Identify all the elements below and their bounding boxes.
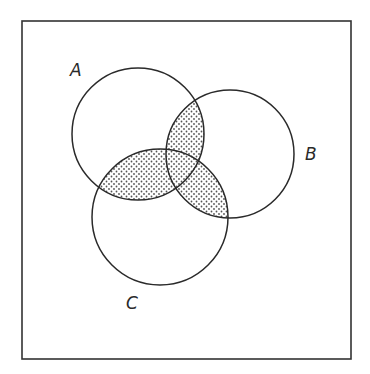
venn-diagram: A B C (0, 0, 370, 374)
shaded-regions (92, 90, 294, 285)
set-b-label: B (305, 144, 317, 164)
set-c-label: C (126, 293, 138, 313)
set-a-label: A (69, 60, 82, 80)
